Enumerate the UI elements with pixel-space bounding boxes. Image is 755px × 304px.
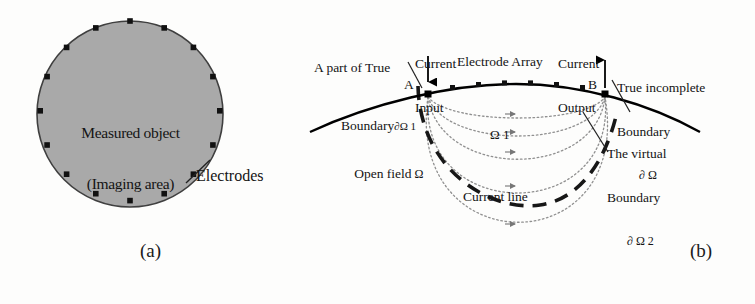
current-output-line1: Current	[558, 57, 599, 72]
electrode-marker	[64, 45, 70, 51]
measured-object-line1: Measured object	[48, 125, 213, 142]
current-output-line2: Output	[558, 101, 599, 116]
figure-container: Measured object (Imaging area) Electrode…	[0, 0, 755, 304]
current-input-line2: Input	[415, 101, 456, 116]
measured-object-label: Measured object (Imaging area)	[48, 92, 213, 226]
electrode-marker	[191, 45, 197, 51]
true-boundary-line1: A part of True	[314, 61, 416, 76]
open-field-symbol: Ω	[415, 167, 424, 181]
panel-a: Measured object (Imaging area) Electrode…	[0, 0, 330, 304]
current-input-line1: Current	[415, 57, 456, 72]
label-region-omega1: Ω 1	[490, 128, 509, 142]
caption-panel-b: (b)	[690, 240, 712, 262]
true-boundary-symbol: ∂Ω 1	[394, 120, 416, 132]
virtual-boundary-line2: Boundary	[607, 191, 667, 206]
label-current-line: Current line	[463, 190, 528, 205]
electrodes-callout-label: Electrodes	[196, 167, 264, 184]
true-incomplete-line1: True incomplete	[617, 81, 705, 96]
electrode-marker	[37, 108, 43, 114]
electrode-current-output	[602, 91, 609, 98]
true-boundary-line2-wrap: Boundary∂Ω 1	[314, 105, 416, 149]
electrode-marker	[502, 80, 507, 85]
true-boundary-line2: Boundary	[341, 118, 394, 133]
label-current-input: Current Input	[415, 28, 456, 145]
label-electrode-array: Electrode Array	[457, 55, 543, 70]
label-point-a: A	[404, 78, 414, 93]
electrode-marker	[476, 82, 481, 87]
measured-object-line2: (Imaging area)	[48, 176, 213, 193]
label-virtual-boundary: The virtual Boundary ∂ Ω 2	[607, 118, 667, 277]
electrode-marker	[210, 74, 216, 80]
virtual-boundary-symbol: ∂ Ω 2	[607, 235, 667, 248]
electrode-marker	[44, 74, 50, 80]
caption-panel-a: (a)	[140, 240, 161, 262]
label-point-b: B	[588, 78, 597, 93]
electrode-marker	[161, 25, 167, 31]
label-open-field: Open field Ω	[334, 152, 424, 196]
electrode-marker	[528, 80, 533, 85]
electrode-marker	[93, 25, 99, 31]
virtual-boundary-line1: The virtual	[607, 147, 667, 162]
open-field-text: Open field	[354, 166, 411, 181]
panel-b: A part of True Boundary∂Ω 1 Current Inpu…	[300, 0, 755, 304]
electrode-marker	[127, 18, 133, 24]
electrode-marker	[217, 108, 223, 114]
